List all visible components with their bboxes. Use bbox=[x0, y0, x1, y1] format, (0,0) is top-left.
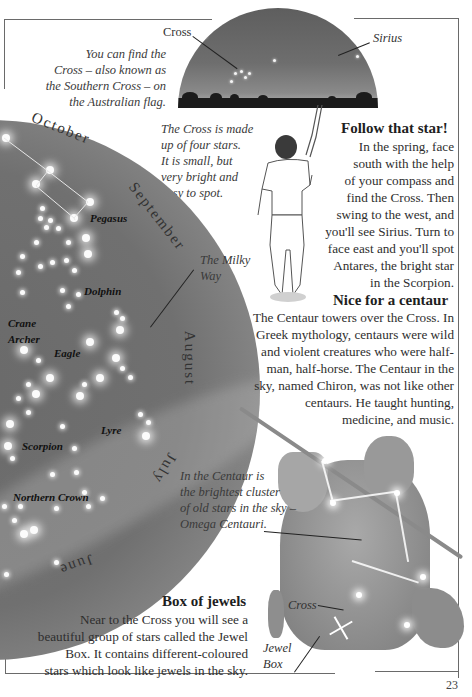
sirius-label: Sirius bbox=[373, 31, 402, 46]
frame-bottom-right bbox=[375, 671, 459, 672]
cross-label-top: Cross bbox=[163, 25, 191, 40]
nice-for-a-centaur-heading: Nice for a centaur bbox=[333, 292, 448, 309]
label-crane: Crane bbox=[8, 317, 36, 329]
southern-cross-stars bbox=[328, 615, 354, 641]
frame-top-left bbox=[4, 19, 212, 20]
follow-that-star-body: In the spring, face south with the help … bbox=[286, 138, 454, 291]
label-eagle: Eagle bbox=[54, 347, 80, 359]
cross-label-bottom: Cross bbox=[288, 598, 317, 613]
box-of-jewels-heading: Box of jewels bbox=[162, 593, 246, 610]
label-dolphin: Dolphin bbox=[84, 285, 121, 297]
night-sky-illustration bbox=[178, 8, 378, 108]
omega-centauri-caption: In the Centaur is the brightest cluster … bbox=[180, 468, 320, 532]
frame-right bbox=[458, 18, 459, 678]
southern-cross-caption: You can find the Cross – also known as t… bbox=[20, 46, 166, 110]
frame-top-right bbox=[354, 18, 458, 19]
label-pegasus: Pegasus bbox=[90, 212, 127, 224]
follow-that-star-heading: Follow that star! bbox=[341, 120, 448, 137]
month-august: August bbox=[181, 331, 198, 386]
jewels-body: Near to the Cross you will see a beautif… bbox=[20, 611, 248, 679]
milky-way-label: The Milky Way bbox=[200, 252, 250, 284]
frame-left-top bbox=[4, 19, 5, 89]
label-archer: Archer bbox=[8, 333, 40, 345]
label-lyre: Lyre bbox=[101, 424, 121, 436]
label-northern-crown: Northern Crown bbox=[13, 491, 73, 503]
jewel-box-label: Jewel Box bbox=[263, 640, 291, 672]
page-number: 23 bbox=[446, 678, 458, 693]
centaur-body: The Centaur towers over the Cross. In Gr… bbox=[232, 309, 454, 428]
label-scorpion: Scorpion bbox=[22, 440, 63, 452]
